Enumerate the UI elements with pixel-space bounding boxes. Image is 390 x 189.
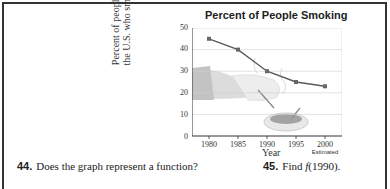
chart-svg: [192, 28, 342, 140]
question-45-number: 45.: [263, 160, 278, 172]
y-axis-label-line2: the U.S. who smoke: [121, 0, 132, 80]
y-tick-50: 50: [168, 23, 188, 32]
y-tick-0: 0: [168, 132, 188, 141]
marker-2000: [323, 84, 327, 88]
x-axis-label: Year: [262, 147, 280, 158]
x-tick-1985: 1985: [223, 140, 253, 149]
y-axis-label: Percent of people in the U.S. who smoke: [110, 0, 132, 80]
question-44: 44.Does the graph represent a function?: [17, 160, 198, 172]
x-annotation-estimated: Estimated: [305, 149, 345, 155]
marker-1980: [207, 37, 211, 41]
y-tick-20: 20: [168, 88, 188, 97]
x-tick-1995: 1995: [281, 140, 311, 149]
question-45-suffix: (1990).: [308, 160, 340, 172]
question-45: 45.Find f(1990).: [263, 160, 340, 172]
hand-cigarette-illustration: [192, 58, 308, 131]
y-tick-30: 30: [168, 66, 188, 75]
y-tick-10: 10: [168, 110, 188, 119]
y-tick-40: 40: [168, 44, 188, 53]
marker-1995: [294, 80, 298, 84]
chart-title: Percent of People Smoking: [205, 9, 347, 21]
marker-1990: [265, 69, 269, 73]
x-tick-1980: 1980: [194, 140, 224, 149]
question-44-text: Does the graph represent a function?: [36, 160, 198, 172]
question-44-number: 44.: [17, 160, 32, 172]
x-tick-2000: 2000: [310, 140, 340, 149]
y-axis-label-line1: Percent of people in: [110, 0, 121, 80]
marker-1985: [236, 48, 240, 52]
question-45-prefix: Find: [282, 160, 305, 172]
line-chart-plot: [192, 28, 342, 136]
